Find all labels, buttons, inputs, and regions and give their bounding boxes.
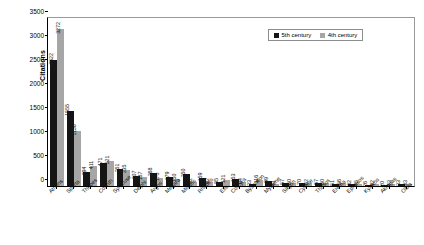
y-tick-mark — [45, 11, 48, 12]
bar-value-label: 2622 — [48, 53, 54, 65]
legend-label-5th-century: 5th century — [282, 32, 312, 38]
x-axis-label: Byzantion — [248, 189, 265, 243]
y-tick-2500: 2500 — [30, 56, 48, 63]
bar-value-label: 411 — [88, 161, 94, 169]
bar-group: 268170 — [148, 18, 165, 186]
bar-value-label: 33 — [395, 181, 401, 187]
x-axis-label: Syracuse — [115, 189, 132, 243]
bar-group: 26223272 — [49, 18, 66, 186]
x-axis-label: Megara — [164, 189, 181, 243]
bar-value-label: 121 — [220, 175, 226, 184]
legend-item-5th-century: 5th century — [274, 32, 311, 38]
bar-group: 5760 — [314, 18, 331, 186]
bar-value-label: 351 — [114, 164, 120, 173]
y-tick-500: 500 — [33, 152, 48, 159]
bar-value-label: 3272 — [55, 22, 61, 34]
bar-value-label: 85 — [213, 178, 219, 184]
y-tick-1000: 1000 — [30, 128, 48, 135]
bar-group: 25092 — [181, 18, 198, 186]
legend-label-4th-century: 4th century — [328, 32, 358, 38]
x-axis-label: Corcyra — [231, 189, 248, 243]
bar-value-label: 471 — [97, 158, 103, 167]
bar-group: 33116 — [248, 18, 265, 186]
x-axis-label: Cyrene — [298, 189, 315, 243]
legend-item-4th-century: 4th century — [320, 32, 357, 38]
x-axis-label: Sparta — [65, 189, 82, 243]
bar-groups: 2622327215551156294411471521351335207187… — [48, 18, 414, 186]
y-tick-3500: 3500 — [30, 8, 48, 15]
legend-swatch-5th-century — [274, 33, 279, 38]
bar-group: 351335 — [115, 18, 132, 186]
y-tick-2000: 2000 — [30, 80, 48, 87]
bar: 1156 — [74, 131, 81, 186]
bar-group: 7062 — [297, 18, 314, 186]
bar-group: 15992 — [198, 18, 215, 186]
bar-group: 85121 — [214, 18, 231, 186]
x-axis-labels: AthensSpartaThebesCorinthSyracuseDelphiA… — [47, 189, 415, 243]
bar-value-label: 335 — [121, 165, 127, 174]
bar-group: 3333 — [396, 18, 413, 186]
x-axis-label: Sikyon — [281, 189, 298, 243]
bar-value-label: 70 — [296, 179, 302, 185]
x-axis-label: Corinth — [98, 189, 115, 243]
x-axis-label: Akragas — [381, 189, 398, 243]
bar-group: 9941 — [264, 18, 281, 186]
bar-value-label: 1156 — [71, 124, 77, 135]
y-tick-3000: 3000 — [30, 32, 48, 39]
bar-group: 15551156 — [66, 18, 83, 186]
y-tick-1500: 1500 — [30, 104, 48, 111]
bar-value-label: 294 — [81, 167, 87, 176]
plot-area: 0500100015002000250030003500 26223272155… — [47, 17, 415, 187]
x-axis-label: Thasos — [314, 189, 331, 243]
bar-value-label: 159 — [197, 173, 203, 182]
bar-value-label: 250 — [180, 169, 186, 178]
legend: 5th century 4th century — [268, 29, 363, 41]
bar-value-label: 179 — [164, 172, 170, 181]
x-tick-mark — [256, 186, 257, 189]
bar-group: 5760 — [281, 18, 298, 186]
x-axis-label: Elis — [214, 189, 231, 243]
bar-value-label: 521 — [104, 156, 110, 165]
x-axis-label: Ephesos — [348, 189, 365, 243]
bar-group: 5156 — [330, 18, 347, 186]
bar-group: 15394 — [231, 18, 248, 186]
bar-group: 3245 — [347, 18, 364, 186]
bar-group: 179150 — [165, 18, 182, 186]
bar: 2622 — [50, 60, 57, 186]
x-axis-label: Olbia — [397, 189, 414, 243]
bar-group: 2043 — [380, 18, 397, 186]
bar-value-label: 153 — [230, 173, 236, 182]
bar-value-label: 268 — [147, 168, 153, 177]
x-axis-label: Mytilene — [264, 189, 281, 243]
bar-group: 2642 — [363, 18, 380, 186]
bar-group: 471521 — [99, 18, 116, 186]
x-axis-label: Kyzikos — [364, 189, 381, 243]
legend-swatch-4th-century — [320, 33, 325, 38]
bar-group: 207187 — [132, 18, 149, 186]
bar: 1555 — [67, 111, 74, 186]
x-axis-label: Miletos — [181, 189, 198, 243]
x-axis-label: Eretria — [331, 189, 348, 243]
y-tick-0: 0 — [40, 176, 48, 183]
bar-chart: Citations 0500100015002000250030003500 2… — [0, 0, 424, 245]
x-axis-label: Thebes — [81, 189, 98, 243]
x-axis-label: Athens — [48, 189, 65, 243]
x-axis-label: Rhodes — [198, 189, 215, 243]
x-axis-label: Argos — [148, 189, 165, 243]
bar-value-label: 1555 — [64, 105, 70, 117]
x-axis-label: Delphi — [131, 189, 148, 243]
